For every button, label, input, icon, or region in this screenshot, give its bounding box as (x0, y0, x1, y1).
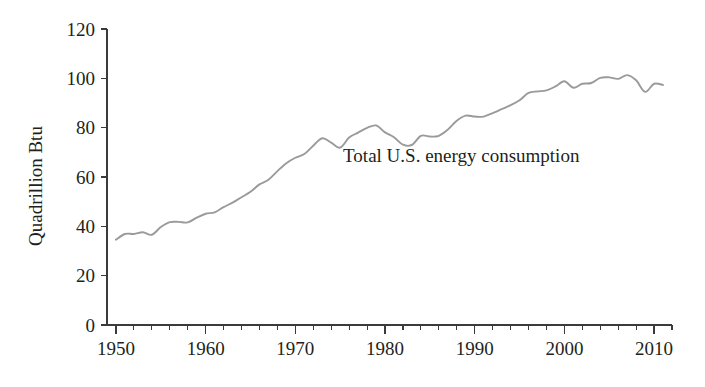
x-tick-label: 1970 (276, 338, 314, 359)
x-tick-label: 1990 (456, 338, 494, 359)
x-tick-label: 1960 (187, 338, 225, 359)
x-tick-label: 1980 (366, 338, 404, 359)
x-tick-label: 2010 (635, 338, 673, 359)
annotation-label: Total U.S. energy consumption (343, 145, 580, 166)
plot-background (0, 0, 705, 387)
y-tick-label: 60 (76, 167, 95, 188)
x-tick-label: 2000 (545, 338, 583, 359)
y-tick-label: 0 (86, 315, 96, 336)
x-tick-label: 1950 (97, 338, 135, 359)
chart-figure: 020406080100120 195019601970198019902000… (0, 0, 705, 387)
energy-consumption-line-chart: 020406080100120 195019601970198019902000… (0, 0, 705, 387)
y-axis-label: Quadrillion Btu (25, 126, 46, 246)
y-tick-label: 20 (76, 265, 95, 286)
series-annotation: Total U.S. energy consumption (343, 145, 580, 166)
y-tick-label: 80 (76, 117, 95, 138)
y-tick-label: 100 (67, 68, 96, 89)
y-tick-label: 40 (76, 216, 95, 237)
y-axis-title: Quadrillion Btu (25, 126, 46, 246)
y-tick-label: 120 (67, 19, 96, 40)
